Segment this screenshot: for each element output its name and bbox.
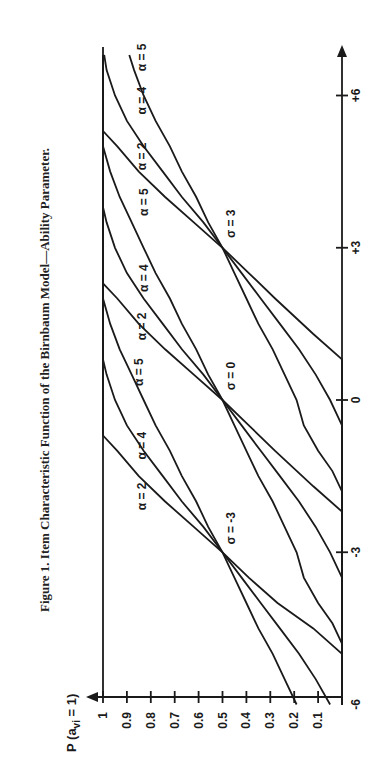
alpha-label: α = 5 [135,43,149,71]
item-characteristic-chart: Figure 1. Item Characteristic Function o… [0,0,380,763]
p-tick-label: 0.2 [287,712,301,729]
p-tick-label: 0.1 [311,712,325,729]
theta-tick-label: 0 [349,396,363,403]
alpha-label: α = 4 [135,86,149,114]
sigma-label: σ = 0 [224,361,238,390]
theta-tick-label: +3 [349,241,363,255]
chart-title: Figure 1. Item Characteristic Function o… [37,148,52,612]
probability-axis-title: P (avi = 1) [64,694,82,752]
probability-axis: 10.90.80.70.60.50.40.30.20.1 [86,691,342,729]
p-tick-label: 0.5 [216,712,230,729]
alpha-label: α = 4 [137,264,151,292]
ability-axis-arrow-icon [337,45,347,57]
alpha-label: α = 5 [137,188,151,216]
theta-tick-label: +6 [349,88,363,102]
p-tick-label: 0.4 [239,712,253,729]
curve-label-group: α = 2α = 4α = 5α = 2α = 4α = 5α = 2α = 4… [132,43,151,510]
p-tick-label: 1 [96,712,110,719]
alpha-label: α = 2 [135,482,149,510]
theta-tick-label: -6 [349,699,363,710]
sigma-label: σ = 3 [224,209,238,238]
p-tick-label: 0.3 [263,712,277,729]
p-tick-label: 0.6 [192,712,206,729]
ability-axis: -6-30+3+6 [336,45,363,710]
probability-axis-arrow-icon [86,692,98,702]
sigma-label: σ = -3 [224,512,238,545]
p-tick-label: 0.7 [168,712,182,729]
alpha-label: α = 2 [135,312,149,340]
alpha-label: α = 2 [135,142,149,170]
p-tick-label: 0.8 [144,712,158,729]
alpha-label: α = 5 [132,358,146,386]
alpha-label: α = 4 [135,431,149,459]
theta-tick-label: -3 [349,547,363,558]
p-tick-label: 0.9 [120,712,134,729]
